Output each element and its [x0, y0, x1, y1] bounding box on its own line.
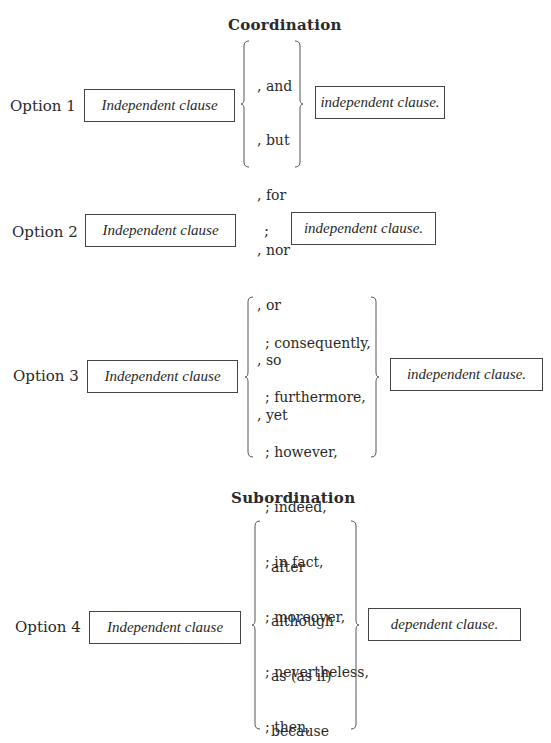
connector: , but — [257, 131, 292, 149]
connector: because — [271, 722, 351, 740]
right-brace-icon — [370, 296, 380, 458]
option3-independent-clause-box: Independent clause — [87, 360, 238, 393]
connector: ; consequently, — [265, 334, 371, 352]
option1-label: Option 1 — [10, 97, 76, 115]
option2-semicolon: ; — [264, 222, 269, 240]
option4-label: Option 4 — [15, 618, 81, 636]
connector: after — [271, 558, 351, 576]
connector: , and — [257, 77, 292, 95]
connector: , nor — [257, 241, 292, 259]
option1-independent-clause-box-right: independent clause. — [315, 86, 445, 119]
subordination-heading: Subordination — [231, 489, 355, 507]
option3-independent-clause-box-right: independent clause. — [390, 358, 543, 391]
option1-independent-clause-box: Independent clause — [84, 89, 235, 122]
connector: as (as if) — [271, 667, 351, 685]
left-brace-icon — [251, 520, 261, 730]
left-brace-icon — [240, 40, 250, 168]
connector: ; however, — [265, 443, 371, 461]
connector: although — [271, 612, 351, 630]
left-brace-icon — [244, 296, 254, 458]
option2-independent-clause-box: Independent clause — [85, 214, 236, 247]
option2-label: Option 2 — [12, 223, 78, 241]
option4-dependent-clause-box: dependent clause. — [368, 608, 521, 641]
connector: ; furthermore, — [265, 388, 371, 406]
right-brace-icon — [350, 520, 360, 730]
right-brace-icon — [294, 40, 304, 168]
option4-connector-list: after although as (as if) because before… — [271, 521, 351, 743]
option3-label: Option 3 — [13, 367, 79, 385]
coordination-heading: Coordination — [228, 16, 342, 34]
connector: , for — [257, 186, 292, 204]
option2-independent-clause-box-right: independent clause. — [291, 212, 436, 245]
option4-independent-clause-box: Independent clause — [89, 611, 241, 644]
